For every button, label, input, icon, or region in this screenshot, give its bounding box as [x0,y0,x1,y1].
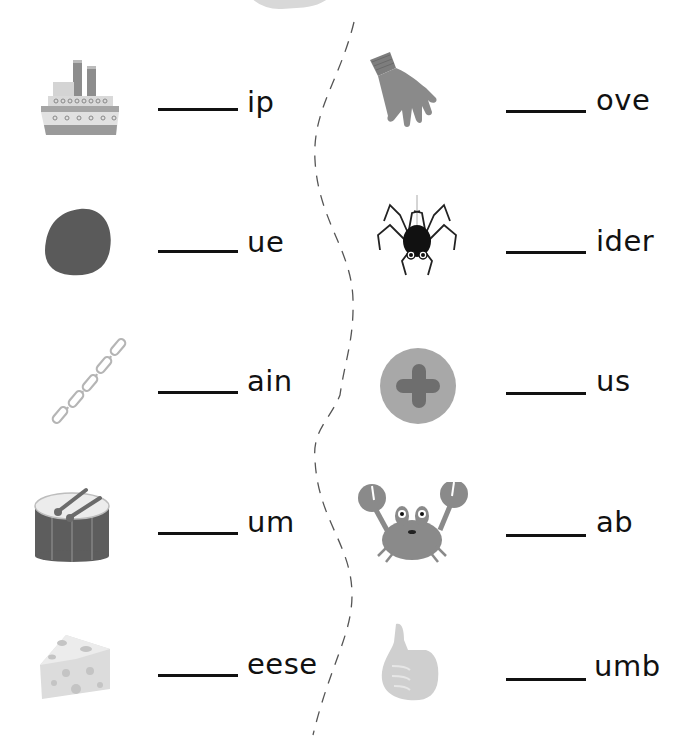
blob-icon [40,203,120,283]
plus-picture [378,346,478,436]
thumbs-up-picture [378,620,478,710]
word-suffix-10: umb [594,652,661,681]
chain-picture [38,335,138,425]
answer-blank-5[interactable] [158,674,238,677]
word-suffix-1: ip [247,88,274,117]
word-suffix-4: um [247,508,295,537]
blob-picture [40,203,140,293]
answer-blank-9[interactable] [506,534,586,537]
answer-blank-1[interactable] [158,108,238,111]
crab-icon [350,482,475,567]
answer-blank-2[interactable] [158,250,238,253]
chain-icon [38,335,128,425]
drum-picture [32,478,132,568]
word-suffix-7: ider [596,227,654,256]
crab-picture [350,482,450,572]
word-suffix-3: ain [247,367,293,396]
spider-icon [372,195,462,285]
answer-blank-8[interactable] [506,392,586,395]
ship-icon [26,55,126,145]
cheese-icon [36,623,116,703]
word-suffix-9: ab [596,508,633,537]
ship-picture [26,55,126,145]
glove-picture [366,48,466,138]
cheese-picture [36,623,136,713]
glove-icon [366,48,446,138]
drum-icon [32,478,112,563]
word-suffix-8: us [596,367,631,396]
answer-blank-7[interactable] [506,251,586,254]
word-suffix-2: ue [247,228,284,257]
answer-blank-6[interactable] [506,110,586,113]
spider-picture [372,195,472,285]
thumbs-up-icon [378,620,448,705]
word-suffix-6: ove [596,86,650,115]
plus-icon [378,346,458,426]
answer-blank-10[interactable] [506,678,586,681]
word-suffix-5: eese [247,650,318,679]
answer-blank-3[interactable] [158,391,238,394]
answer-blank-4[interactable] [158,532,238,535]
